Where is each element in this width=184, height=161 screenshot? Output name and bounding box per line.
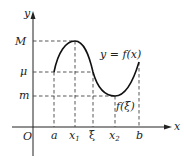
y-axis-arrow-icon (31, 11, 36, 19)
label-mu: μ (20, 65, 27, 78)
label-m: m (19, 89, 29, 102)
label-f-xi: f(ξ) (115, 100, 135, 113)
label-a: a (51, 129, 58, 142)
label-x2: x2 (109, 129, 120, 143)
label-M: M (14, 35, 27, 48)
label-x: x (174, 120, 181, 133)
label-x1: x1 (69, 129, 80, 143)
label-b: b (136, 129, 143, 142)
label-curve: y = f(x) (99, 48, 141, 61)
function-graph: y M μ m O x a x1 ξ x2 b y = f(x) f(ξ) (0, 0, 184, 161)
label-xi: ξ (89, 129, 95, 142)
x-axis-arrow-icon (164, 125, 172, 130)
label-origin: O (23, 130, 32, 143)
label-y: y (23, 7, 31, 20)
